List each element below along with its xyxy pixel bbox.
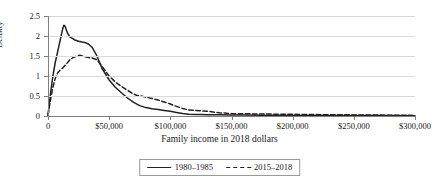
gridline	[48, 56, 415, 57]
x-tick	[293, 116, 294, 120]
x-tick	[170, 116, 171, 120]
y-tick	[44, 16, 48, 17]
x-tick	[354, 116, 355, 120]
legend-solid-line-icon	[147, 164, 171, 171]
x-tick-label: $100,000	[154, 121, 186, 131]
x-tick	[109, 116, 110, 120]
legend-item-1980-1985: 1980–1985	[147, 162, 213, 172]
x-tick	[48, 116, 49, 120]
x-tick-label: $50,000	[95, 121, 123, 131]
y-tick-label: 1.5	[0, 52, 40, 61]
x-tick-label: $200,000	[277, 121, 309, 131]
plot-area	[48, 16, 415, 116]
series-line	[48, 25, 415, 115]
x-tick-label: $300,000	[399, 121, 431, 131]
x-tick	[415, 116, 416, 120]
legend-item-2015-2018: 2015–2018	[226, 162, 292, 172]
legend-label: 2015–2018	[254, 162, 292, 172]
y-tick	[44, 56, 48, 57]
legend: 1980–1985 2015–2018	[139, 159, 301, 176]
y-tick-label: 1	[0, 72, 40, 81]
legend-dashed-line-icon	[226, 164, 250, 171]
y-tick-label: 2.5	[0, 12, 40, 21]
x-tick-label: $150,000	[216, 121, 248, 131]
y-axis-title: Density	[0, 22, 4, 48]
gridline	[48, 36, 415, 37]
x-tick	[232, 116, 233, 120]
gridline	[48, 16, 415, 17]
y-tick-label: 0	[0, 112, 40, 121]
y-tick	[44, 96, 48, 97]
legend-label: 1980–1985	[175, 162, 213, 172]
gridline	[48, 96, 415, 97]
density-chart: 00.511.522.5 0$50,000$100,000$150,000$20…	[0, 0, 439, 185]
x-tick-label: 0	[46, 121, 50, 131]
x-axis-title: Family income in 2018 dollars	[0, 134, 439, 144]
series-lines	[48, 16, 415, 116]
x-tick-label: $250,000	[338, 121, 370, 131]
y-tick-label: 0.5	[0, 92, 40, 101]
y-axis-line	[48, 16, 49, 116]
y-tick	[44, 76, 48, 77]
y-tick	[44, 36, 48, 37]
y-tick-label: 2	[0, 32, 40, 41]
series-line	[48, 55, 415, 115]
gridline	[48, 76, 415, 77]
